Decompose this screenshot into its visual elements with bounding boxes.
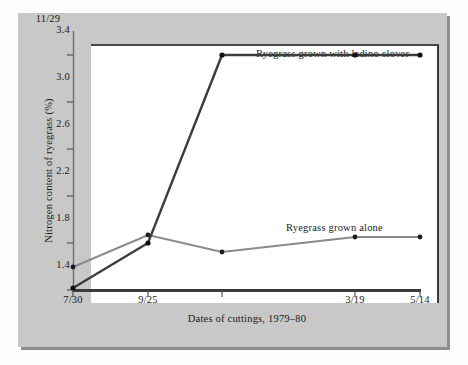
axis-group: [67, 31, 421, 297]
series-clover-path: [73, 55, 420, 288]
chart-vector-layer: [0, 0, 468, 365]
series-clover-markers: [70, 52, 422, 290]
y-axis-ticks: [67, 55, 73, 290]
series-line-ryegrass-clover: [70, 52, 422, 290]
series-line-ryegrass-alone: [71, 233, 423, 270]
series-alone-markers: [71, 233, 423, 270]
series-alone-path: [73, 235, 420, 267]
figure-container: 3.4 3.0 2.6 2.2 1.8 1.4 7/30 9/25 11/29 …: [0, 0, 468, 365]
